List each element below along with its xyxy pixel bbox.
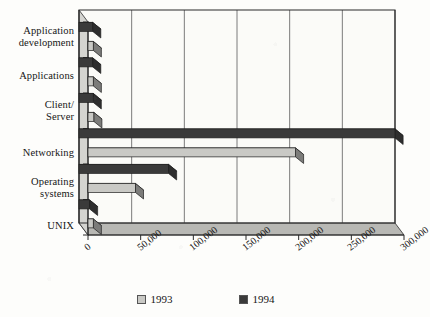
x-tick-label-150000: 150,000 (240, 224, 272, 253)
x-tick-label-50000: 50,000 (135, 227, 163, 253)
legend-label-1994: 1994 (253, 293, 275, 305)
x-tick-label-300000: 300,000 (398, 224, 430, 253)
legend-swatch-1993 (137, 295, 146, 304)
x-tick-label-200000: 200,000 (293, 224, 325, 253)
legend-label-1993: 1993 (151, 293, 173, 305)
legend-item-1993: 1993 (137, 293, 173, 305)
x-tick-label-250000: 250,000 (345, 224, 377, 253)
legend-swatch-1994 (239, 295, 248, 304)
chart-legend: 1993 1994 (0, 289, 411, 309)
legend-item-1994: 1994 (239, 293, 275, 305)
x-tick-label-100000: 100,000 (187, 224, 219, 253)
x-tick-label-0: 0 (82, 241, 93, 253)
